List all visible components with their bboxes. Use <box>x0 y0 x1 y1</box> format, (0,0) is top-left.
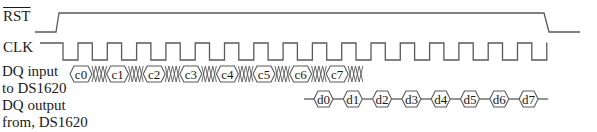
input-bit-c7-label: c7 <box>331 67 344 82</box>
clk-waveform <box>40 43 547 60</box>
input-bit-c2-label: c2 <box>148 67 160 82</box>
output-bit-d2-label: d2 <box>376 92 389 107</box>
input-bit-c7: c7 <box>326 66 348 82</box>
output-bit-d3-label: d3 <box>405 92 418 107</box>
output-bit-d0: d0 <box>314 91 333 107</box>
output-bit-d1: d1 <box>343 91 362 107</box>
output-bit-d7-label: d7 <box>522 92 536 107</box>
input-bit-c3: c3 <box>180 66 202 82</box>
dont-care-zone <box>275 66 290 82</box>
dont-care-zone <box>312 66 327 82</box>
dq-input-label: DQ input to DS1620 <box>2 63 67 97</box>
output-bit-d6-label: d6 <box>493 92 507 107</box>
rst-waveform <box>35 13 580 32</box>
input-bit-c5-label: c5 <box>258 67 270 82</box>
dq-input-label-line2: to DS1620 <box>2 80 67 97</box>
dq-input-waveform: c0c1c2c3c4c5c6c7 <box>70 66 363 82</box>
input-bit-c5: c5 <box>253 66 275 82</box>
output-bit-d0-label: d0 <box>317 92 330 107</box>
output-bit-d6: d6 <box>490 91 509 107</box>
input-bit-c6-label: c6 <box>294 67 307 82</box>
input-bit-c0-label: c0 <box>75 67 87 82</box>
dq-output-waveform: d0d1d2d3d4d5d6d7 <box>304 91 548 107</box>
input-bit-c1-label: c1 <box>111 67 123 82</box>
output-bit-d2: d2 <box>373 91 392 107</box>
input-bit-c6: c6 <box>290 66 312 82</box>
dont-care-zone <box>348 66 363 82</box>
dq-input-label-line1: DQ input <box>2 63 67 80</box>
dont-care-zone <box>92 66 107 82</box>
input-bit-c4-label: c4 <box>221 67 234 82</box>
timing-diagram: c0c1c2c3c4c5c6c7 d0d1d2d3d4d5d6d7 <box>0 0 597 132</box>
input-bit-c1: c1 <box>107 66 129 82</box>
clk-signal-label: CLK <box>3 39 33 56</box>
rst-signal-label: RST <box>3 8 31 25</box>
rst-line <box>35 13 580 32</box>
output-bit-d7: d7 <box>519 91 538 107</box>
dont-care-zone <box>165 66 180 82</box>
dq-output-label: DQ output from, DS1620 <box>2 97 88 131</box>
dont-care-zone <box>202 66 217 82</box>
input-bit-c2: c2 <box>143 66 165 82</box>
clk-line <box>40 43 547 60</box>
output-bit-d3: d3 <box>402 91 421 107</box>
output-bit-d1-label: d1 <box>346 92 359 107</box>
output-bit-d4: d4 <box>431 91 450 107</box>
output-bit-d5: d5 <box>461 91 480 107</box>
dq-output-label-line2: from, DS1620 <box>2 114 88 131</box>
output-bit-d4-label: d4 <box>434 92 448 107</box>
input-bit-c4: c4 <box>216 66 238 82</box>
input-bit-c3-label: c3 <box>185 67 197 82</box>
input-bit-c0: c0 <box>70 66 92 82</box>
dq-output-label-line1: DQ output <box>2 97 88 114</box>
dont-care-zone <box>238 66 253 82</box>
output-bit-d5-label: d5 <box>464 92 477 107</box>
dont-care-zone <box>129 66 144 82</box>
